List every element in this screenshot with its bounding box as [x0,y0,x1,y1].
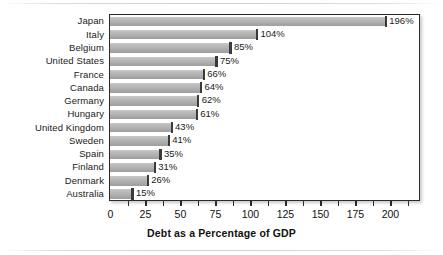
axis-tick-label: 25 [140,207,152,221]
axis-tick [128,201,129,206]
bar-value-label: 75% [220,55,239,67]
axis-tick [373,201,374,206]
bar-value-label: 64% [204,81,223,93]
bar [110,163,153,172]
bar-value-label: 41% [172,134,191,146]
category-label: Canada [0,81,104,94]
category-label: Finland [0,160,104,173]
axis-tick-label: 50 [175,207,187,221]
page-rule-bottom [0,250,443,251]
axis-tick [145,201,146,206]
category-label: Hungary [0,107,104,120]
bar-row: 62% [110,95,418,108]
bar-series: 196%104%85%75%66%64%62%61%43%41%35%31%26… [110,15,418,199]
bar [110,83,200,92]
bar-end-marker [197,95,199,106]
bar-row: 15% [110,188,418,201]
bar-row: 26% [110,175,418,188]
category-label: United Kingdom [0,121,104,134]
axis-tick [198,201,199,206]
bar [110,57,215,66]
axis-tick [285,201,286,206]
value-axis-title: Debt as a Percentage of GDP [0,227,443,239]
category-label: Australia [0,187,104,200]
bar-value-label: 61% [200,108,219,120]
bar-row: 31% [110,161,418,174]
bar-end-marker [196,109,198,120]
axis-tick [233,201,234,206]
bar-row: 66% [110,69,418,82]
category-label: Denmark [0,174,104,187]
axis-tick-label: 75 [210,207,222,221]
axis-tick [355,201,356,206]
bar-end-marker [171,122,173,133]
bar-end-marker [215,56,217,67]
bar-end-marker [131,188,133,199]
axis-tick [390,201,391,206]
bar [110,189,131,198]
chart-figure: JapanItalyBelgiumUnited StatesFranceCana… [0,0,443,255]
bar-end-marker [385,16,387,27]
bar-row: 61% [110,108,418,121]
axis-tick [408,201,409,206]
bar [110,123,170,132]
axis-tick [215,201,216,206]
bar-row: 35% [110,148,418,161]
axis-tick [320,201,321,206]
value-axis-tick-labels: 0255075100125150175200 [109,207,420,223]
axis-tick [303,201,304,206]
bar [110,110,195,119]
bar-end-marker [147,175,149,186]
bar-end-marker [203,69,205,80]
bar [110,43,229,52]
bar-value-label: 85% [234,41,253,53]
axis-tick [250,201,251,206]
bar-value-label: 31% [158,161,177,173]
bar-row: 64% [110,82,418,95]
bar-value-label: 35% [164,148,183,160]
bar [110,176,146,185]
category-label: Spain [0,147,104,160]
axis-tick [268,201,269,206]
bar-end-marker [168,135,170,146]
category-label: Italy [0,28,104,41]
page-rule-top [0,3,443,4]
axis-tick-label: 125 [277,207,295,221]
bar-end-marker [200,82,202,93]
bar-value-label: 43% [175,121,194,133]
axis-tick-label: 200 [382,207,400,221]
axis-tick [338,201,339,206]
bar-end-marker [256,29,258,40]
axis-tick-label: 100 [242,207,260,221]
bar [110,150,159,159]
bar-row: 75% [110,55,418,68]
axis-tick-label: 0 [107,207,113,221]
bar-row: 196% [110,15,418,28]
category-axis-labels: JapanItalyBelgiumUnited StatesFranceCana… [0,14,104,200]
bar-row: 85% [110,42,418,55]
axis-tick-label: 150 [312,207,330,221]
category-label: Japan [0,14,104,27]
bar-end-marker [229,42,231,53]
bar [110,70,202,79]
bar-row: 41% [110,135,418,148]
bar [110,17,384,26]
category-label: United States [0,54,104,67]
bar [110,30,256,39]
bar-row: 104% [110,29,418,42]
category-label: Sweden [0,134,104,147]
bar-value-label: 196% [389,15,413,27]
category-label: France [0,68,104,81]
bar-value-label: 104% [260,28,284,40]
category-label: Belgium [0,41,104,54]
axis-tick [163,201,164,206]
axis-tick [180,201,181,206]
axis-tick-label: 175 [347,207,365,221]
bar-value-label: 62% [202,94,221,106]
bar-end-marker [159,149,161,160]
bar [110,136,167,145]
bar-value-label: 66% [207,68,226,80]
bar [110,96,197,105]
bar-value-label: 26% [151,174,170,186]
category-label: Germany [0,94,104,107]
